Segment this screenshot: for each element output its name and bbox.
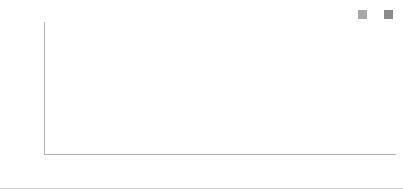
legend-swatch-regular-icon	[384, 10, 393, 19]
legend-item-regular[interactable]	[384, 10, 397, 19]
chart-figure	[0, 0, 403, 189]
y-axis	[0, 22, 44, 154]
x-axis	[45, 157, 396, 169]
plot-wrapper	[0, 22, 403, 167]
x-axis-line	[44, 154, 396, 155]
legend-swatch-nonregular-icon	[358, 10, 367, 19]
plot-area	[45, 22, 396, 154]
legend-item-nonregular[interactable]	[358, 10, 371, 19]
bars-container	[45, 22, 396, 154]
chart-legend	[358, 8, 397, 20]
